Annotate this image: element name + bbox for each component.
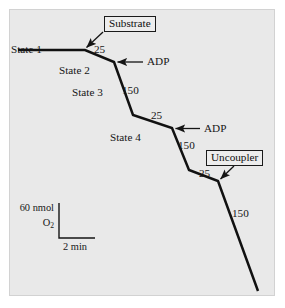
rate-label-preuncoupler: 25 (199, 168, 210, 179)
scale-bar-vertical-value: 60 nmol (0, 203, 54, 214)
adp-2-label: ADP (204, 123, 226, 134)
rate-label-state4: 25 (151, 110, 162, 121)
scale-bar (59, 203, 95, 238)
substrate-box-label: Substrate (104, 16, 156, 32)
uncoupler-box-label: Uncoupler (206, 150, 263, 166)
rate-label-state2: 25 (94, 44, 105, 55)
figure-oxygen-electrode-trace: State 1 State 2 State 3 State 4 25 150 2… (0, 0, 285, 308)
rate-label-state3: 150 (122, 85, 139, 96)
scale-bar-species-subscript: 2 (50, 221, 54, 230)
scale-bar-horizontal-label: 2 min (63, 242, 87, 253)
scale-bar-vertical-species: O2 (0, 218, 54, 230)
uncoupler-arrow (221, 166, 235, 179)
state-4-label: State 4 (110, 132, 141, 143)
adp-1-label: ADP (147, 56, 169, 67)
rate-label-uncoupled: 150 (232, 208, 249, 219)
state-1-label: State 1 (11, 44, 42, 55)
state-3-label: State 3 (72, 87, 103, 98)
rate-label-adp2: 150 (178, 140, 195, 151)
state-2-label: State 2 (59, 65, 90, 76)
